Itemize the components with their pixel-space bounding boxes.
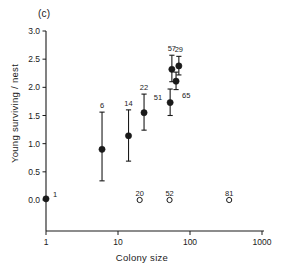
y-tick-label: 2.5	[28, 54, 40, 64]
data-point-label: 14	[124, 99, 132, 108]
y-tick-label: 2.0	[28, 82, 40, 92]
data-marker-open	[227, 197, 232, 202]
y-tick-label: 1.5	[28, 111, 40, 121]
data-marker-filled	[99, 146, 105, 152]
data-marker-open	[137, 197, 142, 202]
figure-panel-c: (c) 0.00.51.01.52.02.53.0110100100016142…	[0, 0, 284, 272]
data-point-label: 52	[165, 189, 173, 198]
x-axis-title: Colony size	[0, 252, 284, 263]
x-tick-label: 1	[44, 237, 49, 247]
data-marker-filled	[176, 63, 182, 69]
y-tick-label: 0.0	[28, 195, 40, 205]
data-marker-open	[167, 197, 172, 202]
x-tick-label: 100	[183, 237, 197, 247]
data-marker-filled	[125, 133, 131, 139]
data-marker-filled	[43, 196, 49, 202]
data-point-label: 29	[175, 45, 183, 54]
scatter-plot: 0.00.51.01.52.02.53.01101001000161422515…	[0, 0, 284, 272]
data-point-label: 51	[154, 93, 162, 102]
x-tick-label: 1000	[253, 237, 272, 247]
x-tick-label: 10	[113, 237, 123, 247]
y-tick-label: 3.0	[28, 26, 40, 36]
y-tick-label: 1.0	[28, 139, 40, 149]
data-point-label: 1	[53, 190, 57, 199]
data-point-label: 81	[225, 189, 233, 198]
data-marker-filled	[141, 110, 147, 116]
data-point-label: 6	[100, 101, 104, 110]
data-marker-filled	[173, 78, 179, 84]
data-point-label: 20	[136, 189, 144, 198]
y-tick-label: 0.5	[28, 167, 40, 177]
data-point-label: 65	[182, 91, 190, 100]
y-axis-title: Young surviving / nest	[9, 34, 20, 194]
data-marker-filled	[169, 66, 175, 72]
data-point-label: 22	[140, 83, 148, 92]
data-marker-filled	[167, 99, 173, 105]
